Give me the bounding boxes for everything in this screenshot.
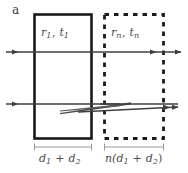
dimension-right-label: n(d1 + d2) [105, 153, 162, 165]
dimension-bracket-left [34, 144, 92, 151]
dim-right-operator: + [129, 152, 146, 165]
dim-right-suffix: ) [158, 152, 162, 165]
solid-box-t-subscript: 1 [64, 30, 69, 40]
dim-left-operator: + [51, 152, 68, 165]
incident-ray-top-mid-arrowhead [150, 50, 156, 55]
dim-right-d2-symbol: d [146, 152, 153, 165]
panel-label: a [12, 4, 19, 16]
dim-right-d1-subscript: 1 [123, 156, 128, 166]
incident-ray-top-start-arrowhead [12, 50, 18, 55]
dimension-bracket-right [104, 144, 164, 151]
dimension-left-label: d1 + d2 [39, 153, 81, 165]
dim-left-d1-symbol: d [39, 152, 46, 165]
transmitted-ray-right-arrowhead [163, 105, 170, 111]
solid-box-coefficients-label: r1, t1 [41, 27, 69, 39]
dashed-box-t-subscript: n [134, 30, 139, 40]
figure-canvas [0, 0, 188, 173]
dashed-box-r-subscript: n [116, 30, 121, 40]
dashed-box-coefficients-label: rn, tn [111, 27, 139, 39]
dashed-box-separator: , [122, 26, 130, 39]
dim-right-prefix: n(d [105, 152, 123, 165]
figure-panel-a: a r1, t1 rn, tn d1 + d2 n(d1 + d2) [0, 0, 188, 173]
dim-left-d2-subscript: 2 [75, 156, 80, 166]
incident-ray-lower-start-arrowhead [12, 102, 18, 107]
